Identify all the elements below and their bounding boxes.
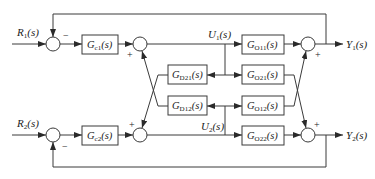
output-summing-junction-2 [301,128,315,142]
gd21-cross-line [142,75,168,128]
y1-label: Y1(s) [346,38,368,52]
decoupling-block-diagram: R1(s) − Gc1(s) + U1(s) GO11(s) + Y1(s) G… [0,0,375,179]
plus-sign-2: + [129,119,135,130]
u2-label: U2(s) [201,120,224,134]
decoupler-summing-junction-1 [133,37,147,51]
output-summing-junction-1 [301,37,315,51]
decoupler-summing-junction-2 [133,128,147,142]
gd12-cross-line [142,51,168,106]
plus-sign-out-1: + [315,49,321,60]
r1-label: R1(s) [16,26,39,40]
error-summing-junction-2 [46,128,60,142]
plus-sign-out-2: + [314,119,320,130]
plus-sign-1: + [127,49,133,60]
y2-label: Y2(s) [346,129,368,143]
minus-sign-2: − [62,141,68,152]
minus-sign-1: − [63,30,69,41]
error-summing-junction-1 [46,37,60,51]
r2-label: R2(s) [16,117,39,131]
u1-label: U1(s) [208,28,231,42]
